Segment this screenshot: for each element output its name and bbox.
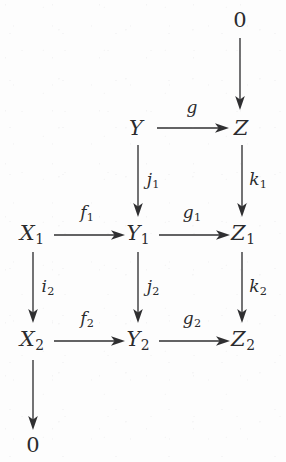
object-Y1: Y1 — [126, 223, 149, 246]
arrow-g1 — [159, 230, 230, 240]
arrow-k1 — [237, 145, 247, 217]
morphism-name: k — [249, 276, 259, 296]
arrow-f2 — [54, 336, 125, 346]
morphism-subscript: 1 — [260, 178, 267, 191]
arrow-g — [157, 123, 229, 133]
object-Z2: Z2 — [231, 329, 255, 352]
object-zero-bottom: 0 — [26, 435, 39, 456]
morphism-label-j2: j2 — [147, 278, 160, 297]
object-Y: Y — [129, 118, 143, 139]
object-zero-top: 0 — [233, 10, 246, 31]
object-label: 0 — [233, 8, 246, 32]
object-subscript: 2 — [35, 337, 44, 353]
object-label: X — [20, 327, 35, 351]
morphism-subscript: 1 — [152, 178, 159, 191]
object-Z: Z — [234, 118, 249, 139]
object-Z1: Z1 — [231, 223, 255, 246]
morphism-subscript: 1 — [194, 211, 201, 224]
morphism-name: k — [249, 169, 259, 189]
object-label: Y — [126, 221, 140, 245]
morphism-name: g — [187, 97, 198, 117]
morphism-label-i2: i2 — [42, 278, 55, 297]
morphism-subscript: 2 — [152, 285, 159, 298]
arrow-i2 — [28, 252, 38, 323]
object-label: Y — [126, 327, 140, 351]
morphism-label-j1: j1 — [147, 171, 160, 190]
morphism-label-g1: g1 — [183, 204, 201, 223]
arrow-k2 — [237, 252, 247, 323]
morphism-label-g: g — [187, 99, 198, 116]
object-Y2: Y2 — [126, 329, 149, 352]
morphism-subscript: 2 — [260, 285, 267, 298]
object-subscript: 1 — [141, 231, 150, 247]
morphism-subscript: 1 — [87, 211, 94, 224]
morphism-name: g — [183, 308, 194, 328]
object-label: X — [20, 221, 35, 245]
morphism-name: g — [183, 202, 194, 222]
object-label: 0 — [26, 433, 39, 457]
arrow-f1 — [54, 230, 125, 240]
object-label: Z — [231, 221, 246, 245]
arrow-X2-to-zero — [28, 360, 38, 430]
object-X2: X2 — [20, 329, 44, 352]
morphism-label-f2: f2 — [80, 310, 94, 329]
object-subscript: 2 — [141, 337, 150, 353]
morphism-name: i — [42, 276, 47, 296]
morphism-subscript: 2 — [194, 317, 201, 330]
commutative-diagram: 0 Y Z X1 Y1 Z1 X2 Y2 Z2 0 g j1 k1 f1 g1 — [0, 0, 286, 462]
morphism-subscript: 2 — [47, 285, 54, 298]
arrow-j2 — [133, 252, 143, 323]
morphism-name: f — [80, 308, 86, 328]
object-label: Z — [234, 116, 249, 140]
morphism-label-g2: g2 — [183, 310, 201, 329]
object-subscript: 1 — [246, 231, 255, 247]
morphism-label-f1: f1 — [80, 204, 94, 223]
object-subscript: 1 — [35, 231, 44, 247]
morphism-label-k2: k2 — [249, 278, 267, 297]
arrow-zero-to-Z — [235, 38, 245, 110]
object-subscript: 2 — [246, 337, 255, 353]
object-X1: X1 — [20, 223, 44, 246]
arrow-j1 — [133, 145, 143, 217]
morphism-label-k1: k1 — [249, 171, 267, 190]
morphism-name: j — [147, 276, 152, 296]
morphism-subscript: 2 — [87, 317, 94, 330]
morphism-name: f — [80, 202, 86, 222]
object-label: Z — [231, 327, 246, 351]
object-label: Y — [129, 116, 143, 140]
morphism-name: j — [147, 169, 152, 189]
arrow-g2 — [159, 336, 230, 346]
